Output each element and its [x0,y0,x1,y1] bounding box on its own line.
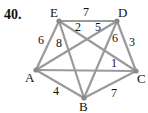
edge-weight-D-B: 6 [112,31,118,45]
vertex-label-B: B [79,99,88,113]
edge-weight-E-C: 2 [75,20,81,34]
edge-weight-D-C: 3 [129,35,135,49]
vertex-label-E: E [50,5,58,20]
weighted-complete-graph: 7682563147EDACB [0,0,148,113]
edge-weight-E-D: 7 [83,5,89,19]
edge-weight-D-A: 5 [95,20,101,34]
edge-weight-A-B: 4 [53,84,59,98]
vertex-label-D: D [118,5,127,20]
edge-weight-B-C: 7 [111,86,117,100]
edge-weight-E-A: 6 [38,33,44,47]
edge-A-C [36,70,136,71]
edge-weight-E-B: 8 [56,36,62,50]
vertex-label-A: A [25,70,35,85]
edge-B-C [84,71,136,98]
edge-weight-A-C: 1 [111,56,117,70]
vertex-label-C: C [137,71,146,86]
